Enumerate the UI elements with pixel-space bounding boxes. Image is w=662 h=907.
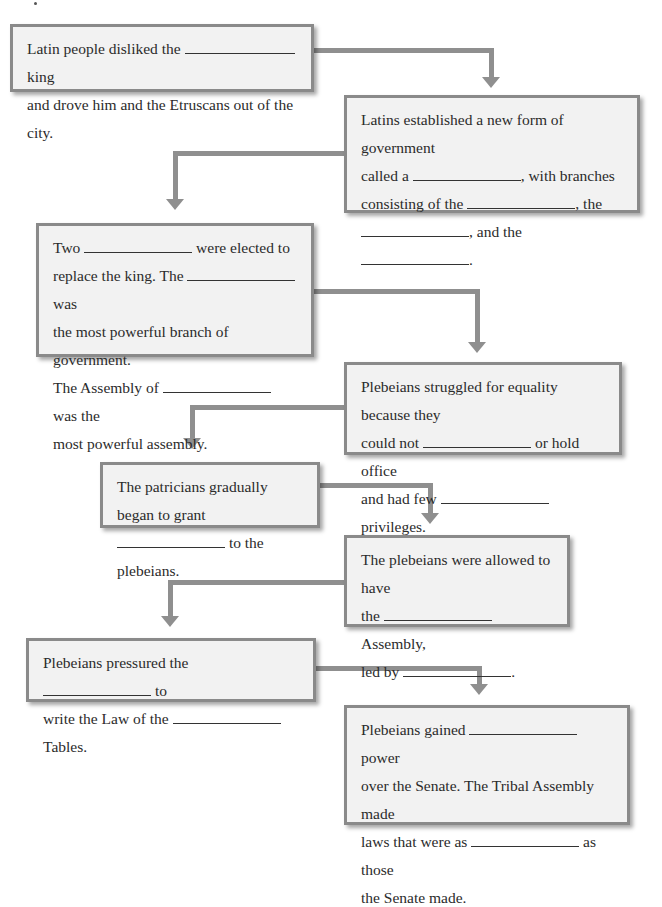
box-text: write the Law of the xyxy=(43,710,173,727)
box-text: Plebeians pressured the xyxy=(43,654,189,671)
box-text: led by xyxy=(361,663,403,680)
box-text: privileges. xyxy=(361,518,426,535)
box-text: Assembly, xyxy=(361,635,426,652)
connector-2-3-v xyxy=(173,151,178,201)
flow-box-3: Two were elected toreplace the king. The… xyxy=(36,223,314,357)
fill-in-blank[interactable] xyxy=(117,533,225,548)
fill-in-blank[interactable] xyxy=(187,266,295,281)
box-text: to xyxy=(151,682,167,699)
flow-box-5: The patricians gradually began to grant … xyxy=(100,462,320,528)
fill-in-blank[interactable] xyxy=(173,709,281,724)
box-text: The patricians gradually began to grant xyxy=(117,478,268,523)
fill-in-blank[interactable] xyxy=(185,39,295,54)
fill-in-blank[interactable] xyxy=(384,606,492,621)
box-text: Tables. xyxy=(43,738,87,755)
fill-in-blank[interactable] xyxy=(441,489,549,504)
box-text: over the Senate. The Tribal Assembly mad… xyxy=(361,777,594,822)
box-text: most powerful assembly. xyxy=(53,435,207,452)
arrow-down-icon xyxy=(468,342,486,353)
box-text: were elected to xyxy=(192,239,290,256)
arrow-down-icon xyxy=(482,77,500,88)
fill-in-blank[interactable] xyxy=(413,166,521,181)
arrow-down-icon xyxy=(166,199,184,210)
box-text: could not xyxy=(361,434,423,451)
connector-6-7-v xyxy=(168,580,173,618)
box-text: the Senate made. xyxy=(361,889,466,906)
connector-1-2-h xyxy=(314,48,494,53)
flow-box-4: Plebeians struggled for equality because… xyxy=(344,362,622,455)
box-text: Two xyxy=(53,239,84,256)
fill-in-blank[interactable] xyxy=(43,681,151,696)
box-text: Plebeians gained xyxy=(361,721,469,738)
box-text: the most powerful branch of government. xyxy=(53,323,229,368)
box-text: The Assembly of xyxy=(53,379,163,396)
fill-in-blank[interactable] xyxy=(467,194,575,209)
box-text: , with branches xyxy=(521,167,615,184)
fill-in-blank[interactable] xyxy=(361,250,469,265)
box-text: was xyxy=(53,295,77,312)
flow-box-6: The plebeians were allowed to havethe As… xyxy=(344,535,570,627)
fill-in-blank[interactable] xyxy=(469,720,577,735)
box-text: was the xyxy=(53,407,100,424)
box-text: Latin people disliked the xyxy=(27,40,185,57)
fill-in-blank[interactable] xyxy=(84,238,192,253)
box-text: . xyxy=(469,251,473,268)
box-text: Latins established a new form of governm… xyxy=(361,111,564,156)
box-text: king xyxy=(27,68,55,85)
connector-3-4-h xyxy=(314,289,480,294)
box-text: , and the xyxy=(469,223,522,240)
fill-in-blank[interactable] xyxy=(361,222,469,237)
fill-in-blank[interactable] xyxy=(403,662,511,677)
box-text: Plebeians struggled for equality because… xyxy=(361,378,558,423)
box-text: consisting of the xyxy=(361,195,467,212)
flow-box-1: Latin people disliked the kingand drove … xyxy=(10,24,314,92)
flow-box-7: Plebeians pressured the towrite the Law … xyxy=(26,638,316,702)
box-text: the xyxy=(361,607,384,624)
box-text: called a xyxy=(361,167,413,184)
connector-4-5-h xyxy=(190,405,344,410)
box-text: , the xyxy=(575,195,602,212)
stray-mark xyxy=(34,2,37,5)
box-text: and had few xyxy=(361,490,441,507)
box-text: The plebeians were allowed to have xyxy=(361,551,550,596)
fill-in-blank[interactable] xyxy=(471,832,579,847)
fill-in-blank[interactable] xyxy=(163,378,271,393)
box-text: power xyxy=(361,749,400,766)
box-text: . xyxy=(511,663,515,680)
connector-3-4-v xyxy=(475,289,480,344)
flow-box-2: Latins established a new form of governm… xyxy=(344,95,640,213)
box-text: laws that were as xyxy=(361,833,471,850)
connector-1-2-v xyxy=(489,48,494,78)
flow-box-8: Plebeians gained powerover the Senate. T… xyxy=(344,705,630,825)
box-text: replace the king. The xyxy=(53,267,187,284)
connector-2-3-h xyxy=(173,151,344,156)
box-text: and drove him and the Etruscans out of t… xyxy=(27,96,293,141)
connector-6-7-h xyxy=(168,580,344,585)
arrow-down-icon xyxy=(161,616,179,627)
fill-in-blank[interactable] xyxy=(423,433,531,448)
